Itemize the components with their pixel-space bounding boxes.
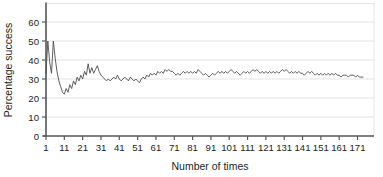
y-tick-label: 30: [28, 74, 39, 85]
x-tick-label: 51: [132, 142, 143, 153]
x-tick-label: 141: [295, 142, 311, 153]
x-tick-label: 41: [114, 142, 125, 153]
x-tick-label: 21: [77, 142, 88, 153]
x-tick-label: 1: [43, 142, 48, 153]
y-tick-label: 20: [28, 93, 39, 104]
y-tick-label: 40: [28, 55, 39, 66]
x-tick-labels: 1112131415161718191101111121131141151161…: [43, 142, 365, 153]
x-axis: [43, 136, 374, 140]
y-tick-label: 10: [28, 112, 39, 123]
series-polyline: [46, 41, 363, 94]
x-tick-label: 31: [96, 142, 107, 153]
x-tick-label: 171: [350, 142, 366, 153]
x-tick-label: 61: [151, 142, 162, 153]
x-tick-label: 101: [221, 142, 237, 153]
y-tick-label: 60: [28, 17, 39, 28]
x-tick-label: 81: [187, 142, 198, 153]
x-tick-label: 151: [313, 142, 329, 153]
y-tick-label: 50: [28, 36, 39, 47]
line-chart-plot: 0102030405060 11121314151617181911011111…: [0, 0, 383, 177]
y-axis-title: Percentage success: [2, 23, 14, 118]
x-tick-label: 91: [206, 142, 217, 153]
x-tick-label: 161: [331, 142, 347, 153]
data-series-line: [46, 41, 363, 94]
x-tick-label: 121: [258, 142, 274, 153]
x-tick-label: 131: [276, 142, 292, 153]
y-tick-label: 0: [34, 131, 39, 142]
x-tick-label: 71: [169, 142, 180, 153]
y-tick-labels: 0102030405060: [28, 17, 46, 142]
x-tick-label: 11: [59, 142, 69, 153]
x-tick-label: 111: [240, 142, 255, 153]
x-axis-title: Number of times: [171, 160, 248, 172]
chart-figure: 0102030405060 11121314151617181911011111…: [0, 0, 383, 177]
